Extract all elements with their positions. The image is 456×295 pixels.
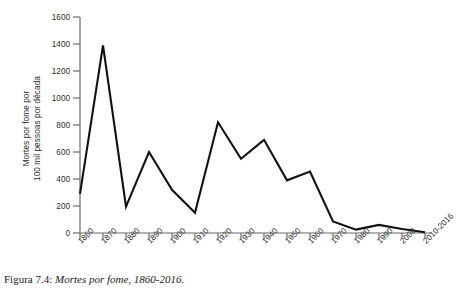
figure-caption-text: Mortes por fome, 1860-2016. xyxy=(55,273,184,285)
chart-svg xyxy=(0,0,443,262)
chart-plot-area: Mortes por fome por 100 mil pessoas por … xyxy=(0,0,443,262)
y-tick-marks xyxy=(73,17,80,233)
x-tick-marks xyxy=(80,233,425,239)
figure-caption-label: Figura 7.4: xyxy=(4,273,52,285)
famine-deaths-line xyxy=(80,45,425,232)
figure-caption: Figura 7.4: Mortes por fome, 1860-2016. xyxy=(4,272,184,286)
